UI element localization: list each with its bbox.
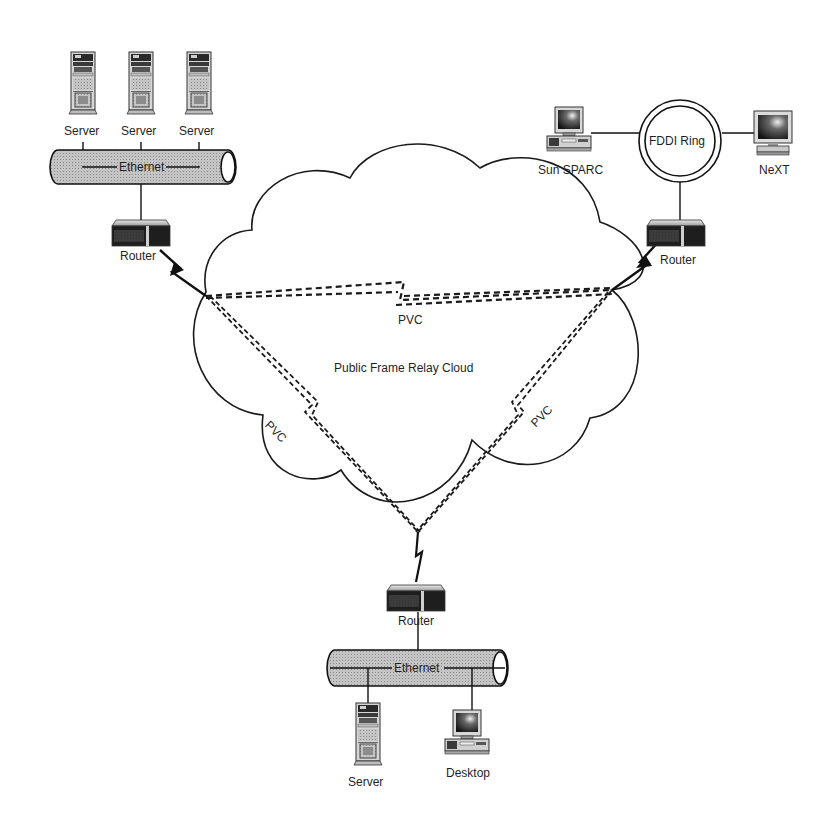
sun-sparc-workstation-icon [547,107,591,151]
next-label: NeXT [759,163,790,177]
router-label: Router [660,253,696,267]
router-label: Router [120,249,156,263]
next-workstation-icon [754,111,792,155]
cloud-label: Public Frame Relay Cloud [334,361,473,375]
server-icon [69,52,97,114]
fddi-ring-label: FDDI Ring [649,134,705,148]
desktop-label: Desktop [446,766,490,780]
pvc-left [206,296,420,532]
router-label: Router [398,614,434,628]
server-label: Server [179,124,214,138]
server-label: Server [121,124,156,138]
router-icon [647,220,705,246]
pvc-right [416,290,612,532]
desktop-icon [445,710,489,754]
serial-link-top-left [160,250,206,296]
top-right-site [591,100,762,222]
top-left-site [50,142,236,222]
server-label: Server [348,775,383,789]
server-icon [185,52,213,114]
ethernet-label: Ethernet [117,160,166,174]
pvc-top [206,282,612,305]
network-diagram [0,0,834,817]
pvc-label-top: PVC [398,313,423,327]
ethernet-label: Ethernet [392,661,441,675]
server-label: Server [64,124,99,138]
server-icon [354,703,382,765]
sun-sparc-label: Sun SPARC [538,163,603,177]
router-icon [387,585,445,611]
serial-link-bottom [416,532,422,582]
server-icon [127,52,155,114]
router-icon [112,220,170,246]
